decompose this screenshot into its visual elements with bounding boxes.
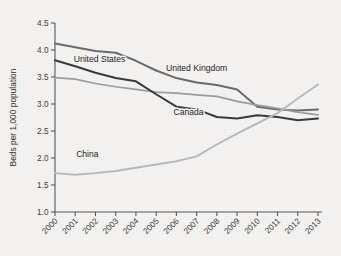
series-label-canada: Canada (173, 107, 203, 117)
x-tick-label: 2009 (222, 216, 242, 236)
y-tick-label: 2.0 (37, 154, 49, 163)
x-tick-label: 2002 (81, 216, 101, 236)
y-axis-title: Beds per 1,000 population (8, 68, 18, 166)
y-tick-label: 1.0 (37, 208, 49, 217)
y-tick-label: 3.5 (37, 73, 49, 82)
x-tick-label: 2011 (263, 216, 282, 235)
x-tick-label: 2000 (40, 216, 60, 236)
x-tick-label: 2005 (142, 216, 162, 236)
y-tick-label: 2.5 (37, 127, 49, 136)
x-tick-label: 2004 (121, 216, 141, 236)
plot-area: 1.01.52.02.53.03.54.04.52000200120022003… (8, 19, 323, 236)
x-tick-label: 2003 (101, 216, 121, 236)
x-tick-label: 2006 (162, 216, 182, 236)
y-tick-label: 4.5 (37, 19, 49, 28)
x-tick-label: 2007 (182, 216, 202, 236)
x-tick-label: 2012 (283, 216, 303, 236)
series-line-china (55, 85, 318, 175)
series-label-united-kingdom: United Kingdom (166, 63, 227, 73)
series-label-united-states: United States (74, 54, 126, 64)
y-tick-label: 1.5 (37, 181, 49, 190)
x-tick-label: 2010 (243, 216, 263, 236)
x-tick-label: 2013 (303, 216, 323, 236)
x-tick-label: 2008 (202, 216, 222, 236)
y-tick-label: 3.0 (37, 100, 49, 109)
series-label-china: China (76, 149, 99, 159)
chart-figure: 1.01.52.02.53.03.54.04.52000200120022003… (0, 0, 341, 256)
y-tick-label: 4.0 (37, 46, 49, 55)
line-chart: 1.01.52.02.53.03.54.04.52000200120022003… (0, 0, 341, 256)
x-tick-label: 2001 (61, 216, 81, 236)
